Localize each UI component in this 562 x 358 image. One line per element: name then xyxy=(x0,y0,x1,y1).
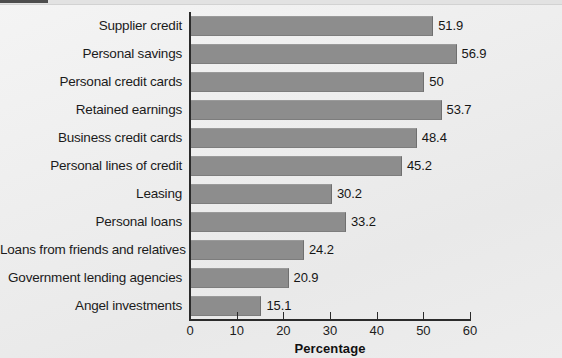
bar-row: Personal lines of credit45.2 xyxy=(0,152,562,180)
x-axis-tick-label: 30 xyxy=(310,323,350,338)
bar-value-label: 56.9 xyxy=(462,40,487,68)
bar xyxy=(191,156,402,176)
x-axis-tick-mark xyxy=(423,312,424,319)
bar xyxy=(191,212,346,232)
bar-value-label: 50 xyxy=(429,68,443,96)
x-axis-title: Percentage xyxy=(189,341,471,356)
bar-row: Government lending agencies20.9 xyxy=(0,264,562,292)
bar xyxy=(191,44,457,64)
bar-chart-figure: Supplier credit51.9Personal savings56.9P… xyxy=(0,0,562,358)
x-axis-tick-label: 0 xyxy=(170,323,210,338)
bar-row: Supplier credit51.9 xyxy=(0,12,562,40)
bar-row: Loans from friends and relatives24.2 xyxy=(0,236,562,264)
category-label: Business credit cards xyxy=(0,124,182,152)
bar-row: Angel investments15.1 xyxy=(0,292,562,320)
x-axis-tick-mark xyxy=(190,312,191,319)
bar xyxy=(191,268,289,288)
bar-value-label: 48.4 xyxy=(422,124,447,152)
bar-value-label: 20.9 xyxy=(294,264,319,292)
bar xyxy=(191,184,332,204)
x-axis-tick-label: 20 xyxy=(263,323,303,338)
bar-value-label: 33.2 xyxy=(351,208,376,236)
plot-area: Supplier credit51.9Personal savings56.9P… xyxy=(0,0,562,358)
bar-row: Personal loans33.2 xyxy=(0,208,562,236)
bar-row: Leasing30.2 xyxy=(0,180,562,208)
category-label: Personal loans xyxy=(0,208,182,236)
bar-value-label: 15.1 xyxy=(266,292,291,320)
x-axis-tick-label: 40 xyxy=(357,323,397,338)
category-label: Government lending agencies xyxy=(0,264,182,292)
bar-value-label: 45.2 xyxy=(407,152,432,180)
x-axis-tick-label: 10 xyxy=(217,323,257,338)
x-axis-tick-label: 50 xyxy=(403,323,443,338)
bar xyxy=(191,16,433,36)
bar-value-label: 30.2 xyxy=(337,180,362,208)
bar xyxy=(191,72,424,92)
category-label: Leasing xyxy=(0,180,182,208)
category-label: Personal lines of credit xyxy=(0,152,182,180)
bar-value-label: 51.9 xyxy=(438,12,463,40)
bar-row: Retained earnings53.7 xyxy=(0,96,562,124)
x-axis-tick-mark xyxy=(283,312,284,319)
bar-value-label: 24.2 xyxy=(309,236,334,264)
category-label: Retained earnings xyxy=(0,96,182,124)
x-axis-tick-mark xyxy=(470,312,471,319)
bar xyxy=(191,100,442,120)
bar xyxy=(191,240,304,260)
bar-row: Business credit cards48.4 xyxy=(0,124,562,152)
x-axis-tick-mark xyxy=(237,312,238,319)
bar-value-label: 53.7 xyxy=(447,96,472,124)
x-axis-tick-mark xyxy=(377,312,378,319)
category-label: Angel investments xyxy=(0,292,182,320)
x-axis-tick-mark xyxy=(330,312,331,319)
category-label: Personal savings xyxy=(0,40,182,68)
bar xyxy=(191,128,417,148)
category-label: Personal credit cards xyxy=(0,68,182,96)
bar xyxy=(191,296,261,316)
category-label: Supplier credit xyxy=(0,12,182,40)
bar-row: Personal savings56.9 xyxy=(0,40,562,68)
x-axis-tick-label: 60 xyxy=(450,323,490,338)
category-label: Loans from friends and relatives xyxy=(0,236,182,264)
bar-row: Personal credit cards50 xyxy=(0,68,562,96)
